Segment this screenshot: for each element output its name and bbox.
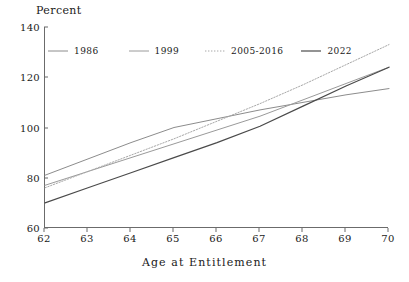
legend-swatch-2005-2016 xyxy=(205,46,225,56)
x-tick-mark xyxy=(302,228,303,232)
x-tick-label: 62 xyxy=(37,233,50,244)
legend-label: 2022 xyxy=(327,46,352,56)
x-tick-label: 68 xyxy=(295,233,308,244)
chart-legend: 198619992005-20162022 xyxy=(48,44,352,58)
series-line-1986 xyxy=(45,89,389,176)
x-tick-label: 65 xyxy=(166,233,179,244)
legend-label: 1986 xyxy=(74,46,99,56)
line-chart: Percent 6080100120140 626364656667686970… xyxy=(0,0,409,282)
legend-item-2005-2016[interactable]: 2005-2016 xyxy=(205,44,283,58)
x-tick-label: 66 xyxy=(209,233,222,244)
y-tick-label: 80 xyxy=(27,172,40,183)
legend-item-2022[interactable]: 2022 xyxy=(301,44,352,58)
series-line-2022 xyxy=(45,67,389,203)
legend-label: 1999 xyxy=(155,46,180,56)
legend-swatch-1999 xyxy=(129,46,149,56)
y-tick-mark xyxy=(44,177,48,178)
x-tick-mark xyxy=(130,228,131,232)
x-tick-mark xyxy=(388,228,389,232)
x-tick-label: 70 xyxy=(381,233,394,244)
y-tick-label: 140 xyxy=(20,22,40,33)
legend-label: 2005-2016 xyxy=(231,46,283,56)
x-tick-mark xyxy=(216,228,217,232)
y-tick-label: 100 xyxy=(20,122,40,133)
x-tick-label: 63 xyxy=(80,233,93,244)
series-line-2005-2016 xyxy=(45,45,389,188)
y-tick-mark xyxy=(44,77,48,78)
legend-swatch-2022 xyxy=(301,46,321,56)
y-axis-title: Percent xyxy=(36,4,82,17)
legend-item-1986[interactable]: 1986 xyxy=(48,44,99,58)
legend-item-1999[interactable]: 1999 xyxy=(129,44,180,58)
x-tick-mark xyxy=(87,228,88,232)
x-tick-mark xyxy=(173,228,174,232)
x-tick-label: 67 xyxy=(252,233,265,244)
x-tick-mark xyxy=(345,228,346,232)
y-tick-mark xyxy=(44,27,48,28)
x-tick-label: 64 xyxy=(123,233,136,244)
series-line-1999 xyxy=(45,67,389,185)
x-axis-title: Age at Entitlement xyxy=(0,256,409,269)
x-tick-mark xyxy=(259,228,260,232)
y-tick-label: 120 xyxy=(20,72,40,83)
x-tick-label: 69 xyxy=(338,233,351,244)
y-tick-label: 60 xyxy=(27,223,40,234)
x-tick-mark xyxy=(44,228,45,232)
legend-swatch-1986 xyxy=(48,46,68,56)
y-tick-mark xyxy=(44,127,48,128)
y-tick-mark xyxy=(44,228,48,229)
